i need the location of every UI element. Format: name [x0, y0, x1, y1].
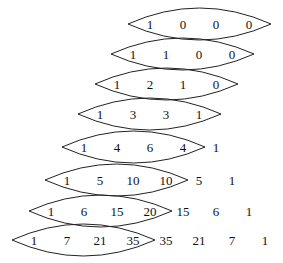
row-value: 5 [97, 173, 104, 188]
row-value: 1 [31, 233, 38, 248]
row-value: 1 [130, 47, 137, 62]
row-value: 1 [147, 17, 154, 32]
row-value: 1 [81, 140, 88, 155]
row-value: 21 [94, 233, 107, 248]
row-value: 0 [196, 47, 203, 62]
row-value: 5 [196, 173, 203, 188]
pascal-row: 172135352171 [12, 224, 268, 256]
row-value: 10 [127, 173, 140, 188]
row-value: 15 [111, 204, 124, 219]
pascal-row: 14641 [62, 131, 219, 163]
pascal-row: 1210 [95, 68, 238, 100]
row-value: 1 [180, 77, 187, 92]
row-value: 0 [229, 47, 236, 62]
pascal-row: 15101051 [45, 164, 235, 196]
row-value: 0 [213, 17, 220, 32]
pascal-row: 1615201561 [29, 195, 252, 227]
row-value: 35 [160, 233, 173, 248]
row-value: 10 [160, 173, 173, 188]
row-value: 3 [130, 107, 137, 122]
row-value: 6 [81, 204, 88, 219]
row-value: 2 [147, 77, 154, 92]
row-value: 1 [114, 77, 121, 92]
row-value: 1 [163, 47, 170, 62]
row-value: 1 [262, 233, 269, 248]
row-value: 3 [163, 107, 170, 122]
row-value: 1 [196, 107, 203, 122]
row-value: 6 [213, 204, 220, 219]
row-value: 7 [64, 233, 71, 248]
row-value: 1 [246, 204, 253, 219]
row-value: 21 [193, 233, 206, 248]
row-value: 35 [127, 233, 140, 248]
row-value: 1 [97, 107, 104, 122]
row-value: 4 [180, 140, 187, 155]
row-value: 15 [177, 204, 190, 219]
row-value: 7 [229, 233, 236, 248]
pascal-row: 1331 [78, 98, 221, 130]
pascal-row: 1000 [128, 8, 271, 40]
row-value: 0 [246, 17, 253, 32]
row-value: 6 [147, 140, 154, 155]
row-value: 0 [213, 77, 220, 92]
pascal-lens-diagram: 1000110012101331146411510105116152015611… [0, 0, 283, 263]
row-value: 0 [180, 17, 187, 32]
row-value: 1 [229, 173, 236, 188]
row-value: 4 [114, 140, 121, 155]
row-value: 1 [48, 204, 55, 219]
pascal-row: 1100 [111, 38, 254, 70]
row-value: 20 [144, 204, 157, 219]
row-value: 1 [64, 173, 71, 188]
row-value: 1 [213, 140, 220, 155]
